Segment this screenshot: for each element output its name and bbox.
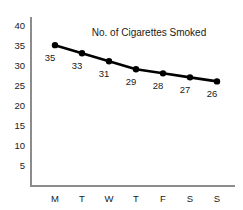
x-tick-label: T [133,193,139,204]
chart-title: No. of Cigarettes Smoked [92,27,207,38]
axes [31,17,235,186]
y-tick-label: 25 [14,80,25,91]
data-point-label: 26 [207,88,218,99]
y-tick-label: 10 [14,140,25,151]
y-axis-tick-labels: 510152025303540 [14,20,25,172]
data-point-label: 28 [153,80,164,91]
x-tick-label: F [160,193,166,204]
data-point-marker [106,58,112,64]
chart-container: 510152025303540 MTWTFSS No. of Cigarette… [0,0,243,210]
data-point-label: 31 [99,68,110,79]
x-tick-label: S [187,193,193,204]
data-point-label: 35 [45,52,56,63]
data-point-marker [52,42,58,48]
x-tick-label: W [105,193,114,204]
data-point-marker [160,70,166,76]
data-point-marker [187,74,193,80]
data-point-marker [79,50,85,56]
data-point-marker [214,78,220,84]
y-tick-label: 15 [14,120,25,131]
data-point-label: 29 [126,76,137,87]
y-tick-label: 35 [14,40,25,51]
data-point-marker [133,66,139,72]
y-tick-label: 5 [20,160,25,171]
y-tick-label: 30 [14,60,25,71]
x-tick-label: T [79,193,85,204]
y-tick-label: 40 [14,20,25,31]
y-tick-label: 20 [14,100,25,111]
x-tick-label: M [51,193,59,204]
x-tick-label: S [214,193,220,204]
axis-lines [31,17,235,186]
x-axis-tick-labels: MTWTFSS [51,193,220,204]
line-chart: 510152025303540 MTWTFSS No. of Cigarette… [0,0,243,210]
data-point-label: 27 [180,84,191,95]
data-point-label: 33 [72,60,83,71]
